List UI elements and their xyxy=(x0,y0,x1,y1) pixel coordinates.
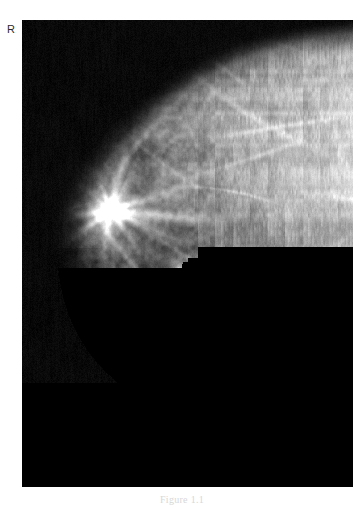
mammogram-image xyxy=(22,20,353,487)
laterality-marker-r: R xyxy=(7,23,15,35)
radiograph-frame[interactable] xyxy=(22,20,353,487)
figure-container: R Figure 1.1 xyxy=(0,0,364,508)
figure-caption: Figure 1.1 xyxy=(0,494,364,506)
